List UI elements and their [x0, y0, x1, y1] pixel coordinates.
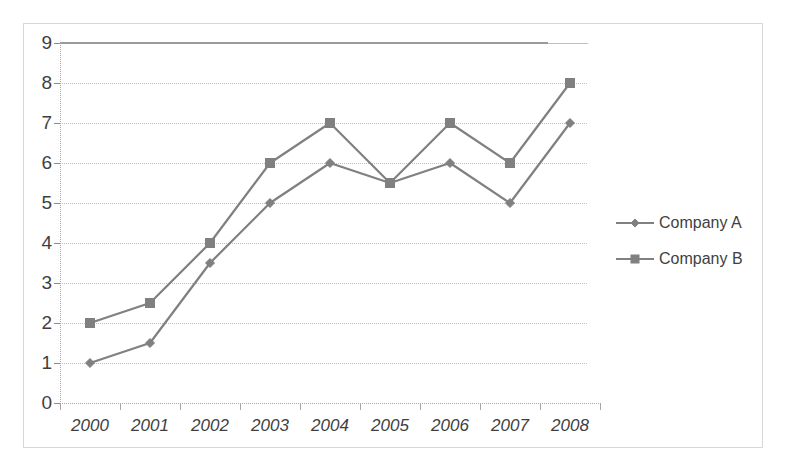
data-point-2-2002	[206, 239, 215, 248]
y-tick-label: 8	[26, 73, 52, 92]
x-tick-label: 2006	[420, 417, 480, 434]
x-tick-label: 2002	[180, 417, 240, 434]
axis-ticks	[54, 43, 600, 410]
data-point-2-2008	[566, 79, 575, 88]
legend-label: Company A	[659, 214, 742, 232]
x-tick-label: 2008	[540, 417, 600, 434]
legend-entry-1[interactable]: Company A	[615, 213, 742, 233]
x-tick-label: 2004	[300, 417, 360, 434]
axis-lines	[60, 43, 600, 403]
y-tick-label: 6	[26, 153, 52, 172]
data-series	[86, 79, 575, 368]
legend-marker-glyph	[631, 219, 639, 227]
x-tick-label: 2000	[60, 417, 120, 434]
line-chart-canvas	[0, 0, 786, 475]
y-tick-label: 4	[26, 233, 52, 252]
legend-marker-square-icon	[615, 252, 655, 266]
data-point-2-2000	[86, 319, 95, 328]
chart-figure: 0123456789 20002001200220032004200520062…	[0, 0, 786, 475]
data-point-2-2007	[506, 159, 515, 168]
data-point-1-2000	[86, 359, 95, 368]
y-tick-label: 9	[26, 33, 52, 52]
data-point-2-2001	[146, 299, 155, 308]
y-tick-label: 2	[26, 313, 52, 332]
gridlines	[60, 43, 588, 403]
y-tick-label: 7	[26, 113, 52, 132]
x-tick-label: 2001	[120, 417, 180, 434]
data-point-2-2006	[446, 119, 455, 128]
y-tick-label: 3	[26, 273, 52, 292]
y-tick-label: 0	[26, 393, 52, 412]
data-point-2-2005	[386, 179, 395, 188]
legend-marker-glyph	[631, 255, 639, 263]
data-point-2-2003	[266, 159, 275, 168]
legend-marker-diamond-icon	[615, 216, 655, 230]
legend-label: Company B	[659, 250, 743, 268]
y-tick-label: 5	[26, 193, 52, 212]
data-point-2-2004	[326, 119, 335, 128]
x-tick-label: 2005	[360, 417, 420, 434]
x-tick-label: 2007	[480, 417, 540, 434]
x-tick-label: 2003	[240, 417, 300, 434]
y-tick-label: 1	[26, 353, 52, 372]
legend-entry-2[interactable]: Company B	[615, 249, 743, 269]
